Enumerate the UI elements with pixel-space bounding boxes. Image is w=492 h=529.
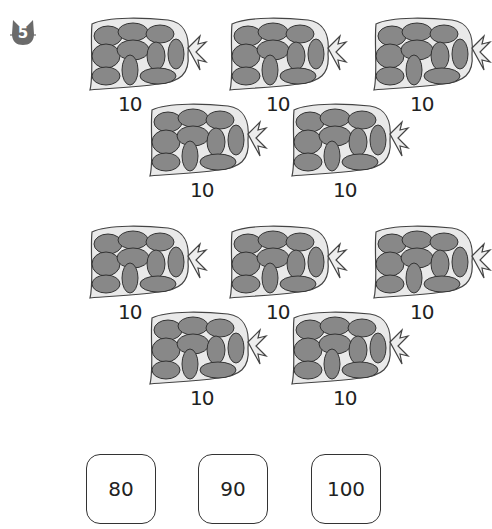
bag-count-label: 10 bbox=[190, 178, 213, 202]
bag-count-label: 10 bbox=[266, 300, 289, 324]
bag-count-label: 10 bbox=[266, 92, 289, 116]
bag-count-label: 10 bbox=[333, 178, 356, 202]
potato-bag-icon bbox=[148, 308, 268, 388]
problem-number: 5 bbox=[10, 24, 36, 42]
potato-bag-icon bbox=[290, 100, 410, 180]
potato-bag-icon bbox=[228, 222, 348, 302]
potato-bag-icon bbox=[88, 222, 208, 302]
bag-count-label: 10 bbox=[410, 92, 433, 116]
answer-choice-80[interactable]: 80 bbox=[86, 454, 156, 524]
potato-bag-icon bbox=[88, 14, 208, 94]
bag-count-label: 10 bbox=[118, 300, 141, 324]
potato-bag-icon bbox=[372, 14, 492, 94]
potato-bag-icon bbox=[148, 100, 268, 180]
bag-count-label: 10 bbox=[190, 386, 213, 410]
answer-choice-100[interactable]: 100 bbox=[311, 454, 381, 524]
potato-bag-icon bbox=[290, 308, 410, 388]
bag-count-label: 10 bbox=[333, 386, 356, 410]
potato-bag-icon bbox=[372, 222, 492, 302]
bag-count-label: 10 bbox=[118, 92, 141, 116]
answer-choice-90[interactable]: 90 bbox=[198, 454, 268, 524]
potato-bag-icon bbox=[228, 14, 348, 94]
bag-count-label: 10 bbox=[410, 300, 433, 324]
